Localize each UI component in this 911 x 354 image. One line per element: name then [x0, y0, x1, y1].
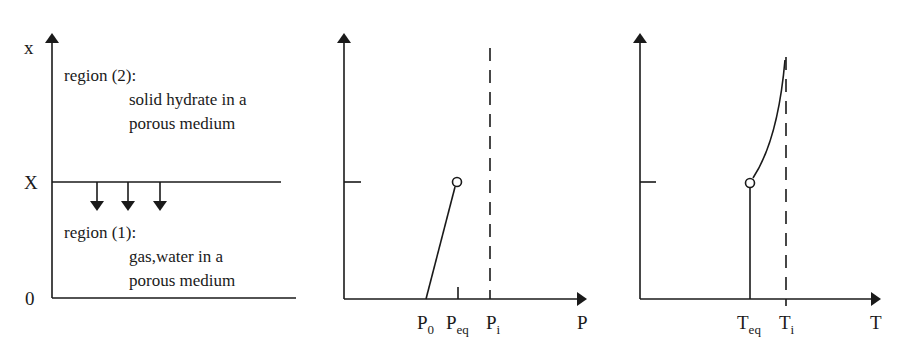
region1-line1: gas,water in a	[129, 246, 223, 267]
teq-label: Teq	[737, 313, 761, 332]
temperature-profile-curve	[753, 60, 785, 178]
peq-label: Peq	[446, 313, 469, 332]
pi-label: Pi	[486, 313, 500, 332]
front-point-circle	[453, 178, 462, 187]
origin-label: 0	[25, 289, 35, 308]
region2-title: region (2):	[64, 65, 136, 86]
pressure-profile-line	[426, 187, 455, 299]
region1-title: region (1):	[64, 222, 136, 243]
ti-label: Ti	[779, 313, 794, 332]
region2-line1: solid hydrate in a	[129, 89, 247, 110]
p-axis-label: P	[577, 313, 588, 332]
temperature-panel-axes	[640, 38, 876, 306]
region1-line2: porous medium	[129, 270, 235, 291]
x-axis-label: x	[24, 38, 34, 57]
pressure-panel-axes	[344, 38, 582, 299]
p0-label: P0	[417, 313, 434, 332]
diagram-canvas	[0, 0, 911, 354]
region2-line2: porous medium	[129, 113, 235, 134]
front-position-label: X	[24, 173, 38, 192]
t-axis-label: T	[870, 313, 882, 332]
front-point-circle	[746, 179, 755, 188]
